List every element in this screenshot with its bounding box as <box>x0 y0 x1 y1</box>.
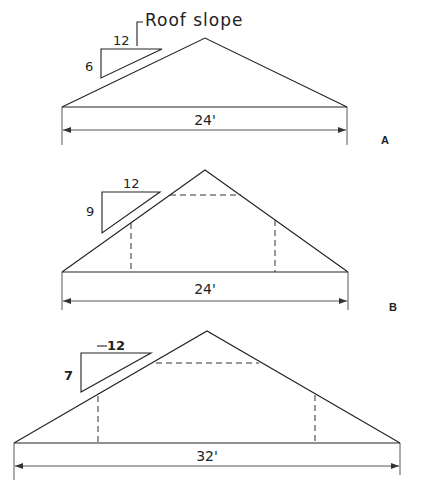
slope-rise-label: 9 <box>86 204 94 219</box>
slope-run-label: 12 <box>113 33 130 48</box>
slope-indicator-b: 12 9 <box>86 176 160 233</box>
slope-rise-label: 7 <box>64 368 73 383</box>
roof-diagram-b: 12 9 24' B <box>62 170 397 313</box>
slope-triangle <box>81 353 151 392</box>
roof-diagram-c: 12 7 32' <box>14 331 400 480</box>
roof-rafters <box>62 170 348 272</box>
span-label: 32' <box>196 448 218 464</box>
slope-run-label: 12 <box>123 176 140 191</box>
diagram-label-b: B <box>389 301 397 313</box>
roof-slope-title: Roof slope <box>145 10 243 30</box>
span-dimension-c: 32' <box>14 443 400 480</box>
roof-diagram-a: Roof slope 12 6 24' A <box>62 10 389 146</box>
roof-rafters <box>14 331 400 443</box>
span-label: 24' <box>194 112 216 128</box>
span-label: 24' <box>194 281 216 297</box>
slope-rise-label: 6 <box>85 59 93 74</box>
title-bracket <box>137 22 143 46</box>
slope-run-label: 12 <box>107 338 125 353</box>
roof-slope-diagram: Roof slope 12 6 24' A 12 9 <box>0 0 427 493</box>
diagram-label-a: A <box>381 134 389 146</box>
span-dimension-a: 24' <box>62 107 347 145</box>
slope-indicator-a: 12 6 <box>85 33 162 78</box>
span-dimension-b: 24' <box>62 272 348 310</box>
roof-rafters <box>62 38 347 107</box>
slope-indicator-c: 12 7 <box>64 338 151 392</box>
